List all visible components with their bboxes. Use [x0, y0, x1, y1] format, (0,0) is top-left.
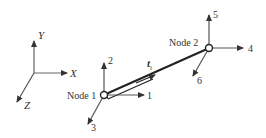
- dof-6-label: 6: [197, 75, 202, 86]
- element-line: [106, 49, 207, 94]
- dof-5-label: 5: [213, 9, 218, 20]
- node-2-circle: [206, 45, 213, 52]
- node-1: Node 1 2 1 3: [67, 55, 152, 133]
- z-axis-label: Z: [24, 99, 31, 111]
- node-2-label: Node 2: [169, 37, 198, 48]
- z-axis-arrow: [17, 73, 34, 102]
- x-axis-label: X: [69, 67, 78, 79]
- node-1-label: Node 1: [67, 90, 96, 101]
- tangent-label: ti: [147, 57, 152, 72]
- dof-3-label: 3: [91, 122, 96, 133]
- dof-4-label: 4: [248, 43, 253, 54]
- dof-1-label: 1: [147, 90, 152, 101]
- node-2: Node 2 5 4 6: [169, 9, 253, 86]
- dof-2-label: 2: [108, 55, 113, 66]
- y-axis-label: Y: [38, 29, 46, 41]
- node-1-circle: [101, 92, 108, 99]
- beam-element-diagram: Y X Z ti Node 1 2 1 3 Node 2 5 4 6: [0, 0, 266, 138]
- beam-element: ti: [106, 49, 207, 99]
